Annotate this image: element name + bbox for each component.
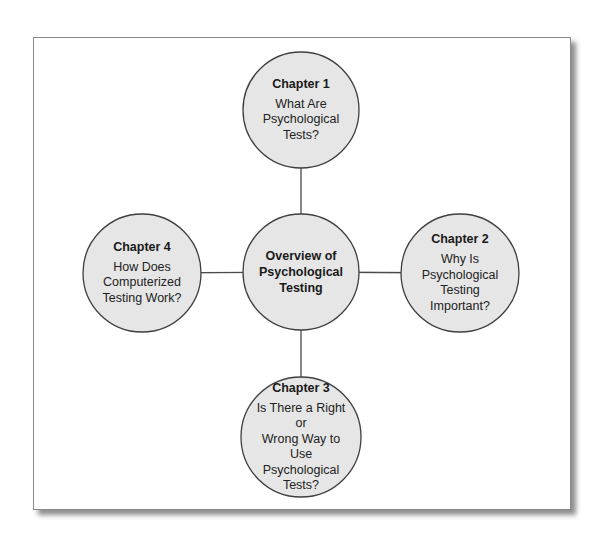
node-overview-title-line: Overview of <box>266 248 337 264</box>
node-chapter-4-text: How Does Computerized Testing Work? <box>103 260 182 307</box>
text-line: Psychological <box>263 112 339 128</box>
text-line: Psychological <box>250 463 352 479</box>
node-chapter-3-title: Chapter 3 <box>272 381 330 396</box>
node-chapter-4-title: Chapter 4 <box>113 240 171 255</box>
node-chapter-3-text: Is There a Right or Wrong Way to Use Psy… <box>250 401 352 494</box>
text-line: Testing Work? <box>103 291 182 307</box>
text-line: Computerized <box>103 275 182 291</box>
node-chapter-1-title: Chapter 1 <box>272 77 330 92</box>
node-chapter-1: Chapter 1 What Are Psychological Tests? <box>242 51 360 169</box>
text-line: Testing <box>422 283 498 299</box>
text-line: Psychological <box>422 268 498 284</box>
node-chapter-1-text: What Are Psychological Tests? <box>263 97 339 144</box>
text-line: Tests? <box>250 478 352 494</box>
text-line: How Does <box>103 260 182 276</box>
node-chapter-2-title: Chapter 2 <box>431 232 489 247</box>
text-line: Wrong Way to Use <box>250 432 352 463</box>
node-chapter-2-text: Why Is Psychological Testing Important? <box>422 252 498 314</box>
node-chapter-4: Chapter 4 How Does Computerized Testing … <box>83 214 201 332</box>
node-chapter-2: Chapter 2 Why Is Psychological Testing I… <box>401 214 519 332</box>
text-line: What Are <box>263 97 339 113</box>
text-line: Is There a Right or <box>250 401 352 432</box>
text-line: Tests? <box>263 128 339 144</box>
node-overview: Overview of Psychological Testing <box>242 213 360 331</box>
node-overview-title-line: Testing <box>279 280 323 296</box>
text-line: Important? <box>422 299 498 315</box>
text-line: Why Is <box>422 252 498 268</box>
node-chapter-3: Chapter 3 Is There a Right or Wrong Way … <box>242 378 360 496</box>
node-overview-title-line: Psychological <box>259 264 343 280</box>
